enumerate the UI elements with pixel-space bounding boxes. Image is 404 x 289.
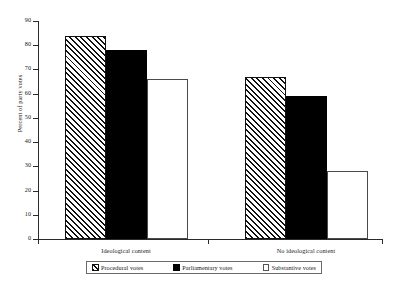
y-axis-tick-label: 80 (5, 41, 31, 47)
y-axis-tick-label-wrap: 20 (0, 187, 31, 195)
bar-procedural (65, 36, 106, 239)
y-axis-tick-label-wrap: 10 (0, 211, 31, 219)
x-axis-tick (208, 239, 209, 244)
bar-parliamentary (106, 50, 147, 239)
legend-label: Procedural votes (101, 264, 143, 271)
x-axis-group-label-2: No ideological content (246, 247, 366, 254)
y-axis-tick-label-wrap: 40 (0, 138, 31, 146)
hatched-swatch-icon (92, 264, 99, 271)
y-axis-tick-label: 50 (5, 114, 31, 120)
y-axis-tick-label: 20 (5, 187, 31, 193)
y-axis-tick-label-wrap: 90 (0, 17, 31, 25)
y-axis-tick-label-wrap: 50 (0, 114, 31, 122)
y-axis-tick-label-wrap: 60 (0, 90, 31, 98)
y-axis-tick-label-wrap: 0 (0, 235, 31, 243)
y-axis-tick-label-wrap: 70 (0, 65, 31, 73)
y-axis-tick-label-wrap: 30 (0, 162, 31, 170)
white-swatch-icon (263, 264, 270, 271)
bar-chart-figure: Percent of party votes 01020304050607080… (0, 0, 404, 289)
legend-item-2[interactable]: Parliamentary votes (173, 264, 232, 271)
chart-legend: Procedural votesParliamentary votesSubst… (86, 261, 322, 274)
y-axis-tick-label: 30 (5, 162, 31, 168)
plot-area (38, 21, 382, 239)
y-axis-tick-label: 40 (5, 138, 31, 144)
y-axis-tick-label-wrap: 80 (0, 41, 31, 49)
legend-label: Parliamentary votes (182, 264, 232, 271)
black-swatch-icon (173, 264, 180, 271)
legend-item-1[interactable]: Procedural votes (92, 264, 143, 271)
y-axis-label: Percent of party votes (16, 39, 23, 169)
bar-procedural (245, 77, 286, 239)
x-axis-tick (38, 239, 39, 244)
legend-item-3[interactable]: Substantive votes (263, 264, 316, 271)
bar-parliamentary (286, 96, 327, 239)
bar-substantive (327, 171, 368, 239)
legend-label: Substantive votes (272, 264, 316, 271)
y-axis-tick-label: 0 (5, 235, 31, 241)
x-axis-line (38, 239, 382, 240)
y-axis-tick-label: 90 (5, 17, 31, 23)
x-axis-tick (382, 239, 383, 244)
y-axis-tick-label: 70 (5, 65, 31, 71)
x-axis-group-label-1: Ideological content (66, 247, 186, 254)
y-axis-tick-label: 10 (5, 211, 31, 217)
y-axis-tick-label: 60 (5, 90, 31, 96)
bar-substantive (147, 79, 188, 239)
